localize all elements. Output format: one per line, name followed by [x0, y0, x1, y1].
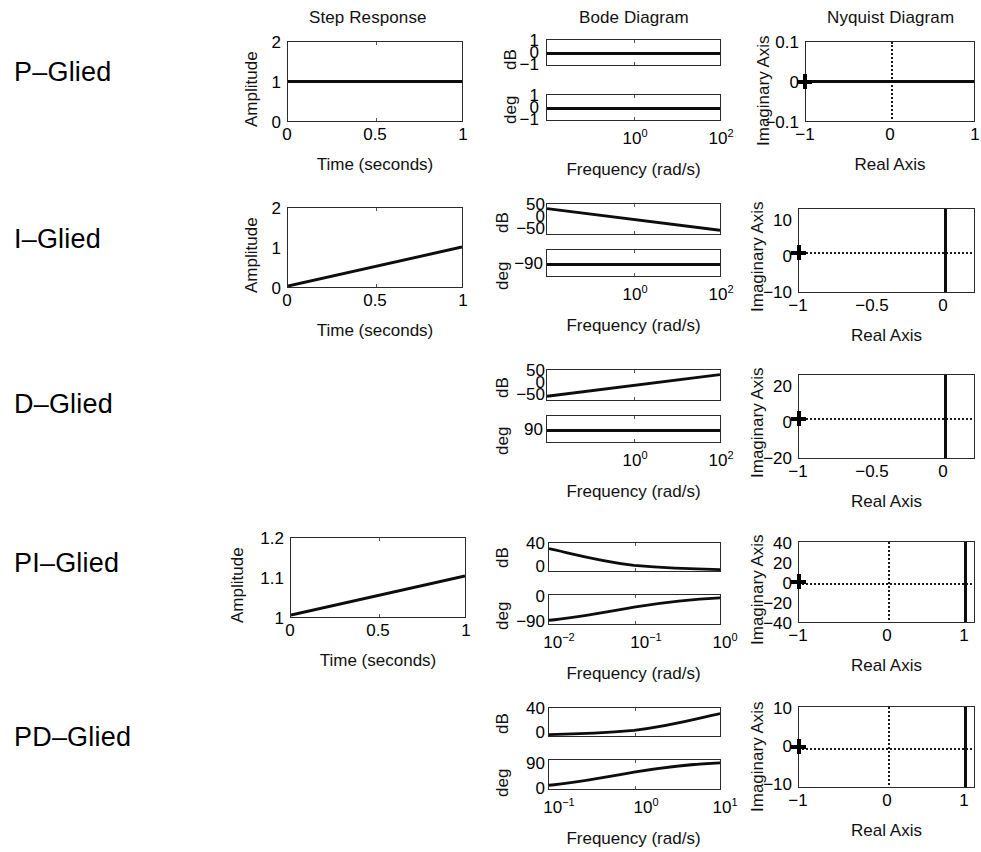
step-xlabel-pi: Time (seconds): [288, 651, 468, 671]
nyquist-xtick-1-pi: 1: [948, 627, 980, 644]
step-ytick-2-i: 2: [245, 200, 281, 217]
nyquist-gridline-h-pi: [799, 583, 975, 585]
nyquist-plot-d: [798, 374, 975, 459]
bode-xtick-1e1-pd: 101: [698, 799, 752, 816]
bode-magnitude-plot-p: [546, 39, 721, 66]
trace-bode-mag-pd: [549, 708, 720, 736]
bode-ytick-ph-0-pd: 0: [503, 780, 545, 797]
row-label-d-glied: D–Glied: [14, 389, 113, 420]
nyquist-xtick-m1-p: −1: [789, 126, 821, 143]
nyquist-plot-pd: [798, 706, 975, 788]
bode-xlabel-pi: Frequency (rad/s): [541, 664, 726, 684]
step-xtick-1-pi: 1: [451, 622, 481, 639]
trace-bode-mag-i: [547, 204, 720, 234]
bode-ytick-mag-0-pi: 0: [505, 558, 545, 575]
trace-step-pi: [291, 538, 465, 617]
trace-nyquist-d: [944, 375, 947, 459]
step-xtick-1-p: 1: [448, 126, 478, 143]
nyquist-xtick-m1-pd: −1: [782, 792, 814, 809]
nyquist-xtick-0-p: 0: [874, 126, 906, 143]
bode-ytick-ph-0-pi: 0: [505, 588, 545, 605]
trace-bode-phase-d: [547, 429, 721, 432]
bode-ytick-mag-m50-i: −50: [498, 220, 545, 237]
bode-xlabel-pd: Frequency (rad/s): [541, 829, 726, 849]
trace-bode-phase-p: [547, 107, 721, 110]
bode-ytick-ph-m1-p: −1: [512, 111, 539, 128]
nyquist-ytick-20-pi: 20: [748, 555, 792, 572]
nyquist-xtick-1-pd: 1: [948, 792, 980, 809]
nyquist-ytick-0-p: 0: [755, 74, 799, 91]
trace-nyquist-p: [806, 80, 975, 83]
step-ytick-1-i: 1: [245, 240, 281, 257]
bode-magnitude-plot-pd: [548, 707, 721, 737]
nyquist-xlabel-pd: Real Axis: [798, 821, 975, 841]
nyquist-ytick-10-i: 10: [748, 212, 792, 229]
nyquist-xtick-m05-d: −0.5: [850, 463, 894, 480]
bode-xlabel-i: Frequency (rad/s): [541, 316, 726, 336]
figure-canvas: Step Response Bode Diagram Nyquist Diagr…: [0, 0, 981, 852]
nyquist-xtick-1-p: 1: [959, 126, 981, 143]
bode-xtick-1e0-pd: 100: [617, 799, 675, 816]
step-xtick-05-pi: 0.5: [363, 622, 393, 639]
bode-ytick-mag-0-pd: 0: [505, 724, 545, 741]
nyquist-ytick-0-i: 0: [748, 248, 792, 265]
nyquist-critical-point-marker-pd: [791, 739, 806, 754]
nyquist-ytick-m10-pd: −10: [741, 776, 792, 793]
nyquist-ytick-20-d: 20: [748, 378, 792, 395]
nyquist-plot-i: [798, 208, 975, 293]
step-response-plot-i: [287, 207, 463, 288]
trace-nyquist-pd: [964, 707, 967, 788]
step-ytick-2-p: 2: [245, 34, 281, 51]
step-xlabel-i: Time (seconds): [285, 321, 465, 341]
bode-xtick-1em1-pd: 10−1: [530, 799, 588, 816]
nyquist-ytick-0-pi: 0: [748, 575, 792, 592]
nyquist-xtick-0-i: 0: [927, 297, 959, 314]
nyquist-ytick-0-pd: 0: [748, 738, 792, 755]
nyquist-xtick-0-pi: 0: [871, 627, 903, 644]
bode-ytick-ph-m90-i: −90: [495, 255, 543, 272]
nyquist-critical-point-marker-pi: [791, 574, 806, 589]
bode-ytick-mag-m1-p: −1: [512, 56, 539, 73]
bode-xtick-1e2-d: 102: [694, 452, 748, 469]
step-response-plot-pi: [290, 537, 466, 618]
bode-xtick-1e0-p: 100: [608, 130, 662, 147]
bode-ytick-mag-m50-d: −50: [498, 386, 545, 403]
trace-nyquist-pi: [964, 542, 967, 623]
nyquist-xlabel-i: Real Axis: [798, 326, 975, 346]
trace-bode-phase-pi: [549, 595, 720, 624]
nyquist-xtick-0-pd: 0: [871, 792, 903, 809]
step-xtick-1-i: 1: [448, 292, 478, 309]
column-title-nyquist-diagram: Nyquist Diagram: [827, 8, 954, 28]
nyquist-ytick-10-pd: 10: [748, 700, 792, 717]
nyquist-critical-point-marker-p: [797, 74, 812, 89]
bode-xtick-1e0-i: 100: [608, 286, 662, 303]
nyquist-gridline-h-i: [799, 252, 975, 254]
bode-magnitude-plot-i: [546, 203, 721, 235]
bode-xtick-1e2-i: 102: [694, 286, 748, 303]
bode-phase-plot-p: [546, 94, 721, 121]
step-xtick-05-p: 0.5: [360, 126, 390, 143]
step-xlabel-p: Time (seconds): [285, 155, 465, 175]
bode-ytick-mag-40-pi: 40: [505, 535, 545, 552]
step-xtick-05-i: 0.5: [360, 292, 390, 309]
step-response-plot-p: [287, 41, 463, 122]
trace-bode-mag-pi: [549, 543, 720, 571]
trace-bode-phase-pd: [549, 760, 720, 789]
bode-phase-plot-d: [546, 415, 721, 443]
nyquist-gridline-h-pd: [799, 748, 975, 750]
trace-nyquist-i: [944, 209, 947, 293]
nyquist-critical-point-marker-d: [791, 411, 806, 426]
row-label-i-glied: I–Glied: [14, 224, 101, 255]
column-title-bode-diagram: Bode Diagram: [579, 8, 689, 28]
nyquist-ytick-m20-pi: −20: [741, 595, 792, 612]
nyquist-plot-pi: [798, 541, 975, 623]
bode-ytick-mag-40-pd: 40: [505, 700, 545, 717]
row-label-pd-glied: PD–Glied: [14, 722, 131, 753]
trace-step-i: [288, 208, 462, 287]
step-ytick-1-p: 1: [245, 74, 281, 91]
trace-bode-mag-p: [547, 52, 721, 55]
bode-xlabel-d: Frequency (rad/s): [541, 482, 726, 502]
nyquist-ylabel-pd: Imaginary Axis: [748, 701, 768, 812]
nyquist-xlabel-d: Real Axis: [798, 492, 975, 512]
bode-magnitude-plot-pi: [548, 542, 721, 572]
